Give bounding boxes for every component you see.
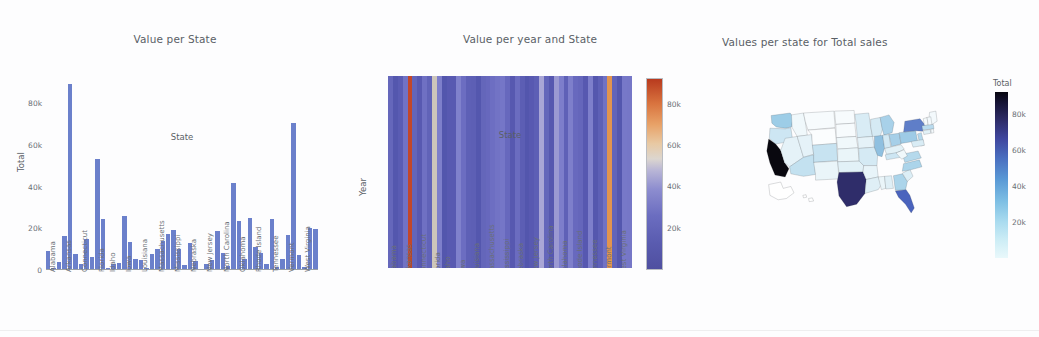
bar-x-tick-label: North Carolina	[223, 221, 231, 272]
bar-x-tick-label: Louisiana	[141, 239, 149, 272]
bar-y-tick-label: 60k	[28, 140, 42, 149]
bar-x-tick-label: Idaho	[109, 252, 117, 272]
map-state-ks[interactable]: Kansas: 6000	[838, 148, 860, 162]
map-colorbar: 20k40k60k80k	[995, 92, 1008, 258]
map-state-al[interactable]: Alabama: 10000	[885, 176, 894, 189]
bar-item[interactable]	[150, 254, 154, 270]
map-state-ak[interactable]: Alaska: 1200	[769, 182, 794, 200]
heatmap-x-tick-label: North Carolina	[547, 225, 555, 268]
map-colorbar-tick-label: 80k	[1012, 109, 1026, 118]
map-state-ne[interactable]: Nebraska: 4000	[836, 136, 858, 149]
bar-x-tick-label: Vermont	[288, 242, 296, 272]
heatmap-x-tick-label: New Jersey	[532, 237, 540, 268]
map-state-hi[interactable]: Hawaii: 1200	[803, 195, 814, 202]
bar-x-tick-label: Rhode Island	[255, 227, 263, 272]
bar-y-tick-label: 0	[37, 266, 42, 275]
map-state-wy[interactable]: Wyoming: 1500	[808, 128, 837, 145]
map-state-wa[interactable]: Washington: 27000	[771, 113, 793, 128]
heatmap-x-tick-label: Nebraska	[517, 243, 525, 268]
heatmap-ylabel: Year	[358, 178, 368, 196]
map-state-mi[interactable]: Michigan: 25000	[880, 115, 894, 135]
bar-x-tick-label: Iowa	[125, 256, 133, 272]
map-state-mo[interactable]: Missouri: 13000	[859, 147, 878, 165]
map-state-ny[interactable]: New York: 47000	[904, 119, 926, 132]
map-colorbar-tick-label: 40k	[1012, 181, 1026, 190]
map-state-ia[interactable]: Iowa: 8000	[857, 136, 874, 148]
bar-item[interactable]	[231, 183, 235, 270]
map-state-ri[interactable]: Rhode Island: 3000	[931, 129, 934, 133]
heatmap-x-tick-label: Connecticut	[420, 234, 428, 268]
bar-y-tick-label: 20k	[28, 224, 42, 233]
heatmap-x-tick-label: Florida	[434, 252, 442, 268]
map-state-fl[interactable]: Florida: 53000	[895, 190, 914, 213]
heatmap-x-tick-label: Massachusetts	[488, 224, 496, 268]
bar-item[interactable]	[313, 229, 317, 270]
bar-x-tick-label: Massachusetts	[158, 220, 166, 272]
map-colorbar-tick-label: 60k	[1012, 145, 1026, 154]
bar-chart-xlabel: State	[46, 132, 318, 142]
bar-y-tick-label: 40k	[28, 182, 42, 191]
dashboard-root: Value per State Total 020k40k60k80k Alab…	[0, 0, 1039, 337]
heatmap-colorbar: 20k40k60k80k	[646, 78, 663, 270]
map-colorbar-title: Total	[993, 79, 1012, 88]
map-colorbar-tick-label: 20k	[1012, 217, 1026, 226]
bar-x-tick-label: West Virginia	[304, 226, 312, 272]
bar-x-tick-label: Florida	[98, 248, 106, 272]
heatmap-x-tick-label: Louisiana	[473, 243, 481, 268]
us-choropleth-map[interactable]: Washington: 27000Oregon: 15000California…	[756, 100, 946, 240]
map-state-sd[interactable]: South Dakota: 2000	[836, 123, 856, 138]
bar-chart-x-ticks: AlabamaArkansasConnecticutFloridaIdahoIo…	[46, 270, 318, 332]
bar-chart-plot-area: 020k40k60k80k AlabamaArkansasConnecticut…	[46, 78, 318, 270]
map-state-ok[interactable]: Oklahoma: 9000	[838, 161, 864, 172]
heatmap-title: Value per year and State	[350, 33, 710, 45]
heatmap-colorbar-tick-label: 60k	[667, 141, 681, 150]
panel-value-per-state: Value per State Total 020k40k60k80k Alab…	[0, 0, 350, 337]
bar-item[interactable]	[166, 234, 170, 270]
bar-x-tick-label: Nebraska	[190, 239, 198, 272]
bar-item[interactable]	[215, 231, 219, 270]
map-state-tx[interactable]: Texas: 68000	[837, 172, 866, 207]
map-state-nm[interactable]: New Mexico: 6000	[814, 161, 839, 180]
bar-chart-ylabel: Total	[16, 152, 26, 172]
heatmap-x-tick-label: Mississippi	[503, 239, 511, 268]
bar-y-tick-label: 80k	[28, 99, 42, 108]
heatmap-colorbar-tick-label: 80k	[667, 99, 681, 108]
map-state-co[interactable]: Colorado: 17000	[812, 143, 837, 162]
bar-x-tick-label: Connecticut	[81, 230, 89, 272]
map-state-mn[interactable]: Minnesota: 12000	[855, 113, 873, 138]
heatmap-x-tick-label: West Virginia	[620, 230, 628, 268]
heatmap-xlabel: State	[388, 130, 632, 140]
bar-item[interactable]	[90, 257, 94, 270]
heatmap-x-tick-label: Vermont	[605, 246, 613, 268]
bar-x-tick-label: Alabama	[49, 241, 57, 272]
bar-chart-title: Value per State	[0, 33, 350, 45]
map-state-ct[interactable]: Connecticut: 9000	[923, 129, 931, 134]
heatmap-x-tick-label: Rhode Island	[576, 231, 584, 268]
heatmap-x-tick-label: Idaho	[444, 256, 452, 268]
heatmap-colorbar-tick-label: 20k	[667, 223, 681, 232]
map-state-oh[interactable]: Ohio: 26000	[889, 133, 901, 146]
map-state-mt[interactable]: Montana: 2000	[804, 111, 836, 130]
heatmap-colorbar-tick-label: 40k	[667, 182, 681, 191]
map-title: Values per state for Total sales	[722, 36, 888, 48]
bar-item[interactable]	[73, 254, 77, 270]
bar-x-tick-label: Mississippi	[174, 235, 182, 272]
map-state-nd[interactable]: North Dakota: 2000	[835, 110, 855, 124]
bar-item[interactable]	[248, 218, 252, 270]
bar-x-tick-label: Tennessee	[272, 236, 280, 272]
heatmap-x-tick-label: Oklahoma	[561, 240, 569, 268]
bottom-divider	[0, 330, 1039, 331]
heatmap-x-tick-label: Arkansas	[405, 244, 413, 268]
bar-x-tick-label: New Jersey	[206, 233, 214, 272]
bar-x-tick-label: Oklahoma	[239, 236, 247, 272]
bar-x-tick-label: Arkansas	[65, 240, 73, 272]
heatmap-x-tick-label: Iowa	[459, 260, 467, 268]
heatmap-x-tick-label: Alabama	[390, 245, 398, 268]
heatmap-plot-area: 2,019.62,019.82,0202,020.22,020.4 Alabam…	[388, 76, 632, 268]
us-map-svg: Washington: 27000Oregon: 15000California…	[756, 100, 946, 240]
bar-item[interactable]	[297, 255, 301, 270]
heatmap-x-tick-label: Tennessee	[591, 240, 599, 268]
